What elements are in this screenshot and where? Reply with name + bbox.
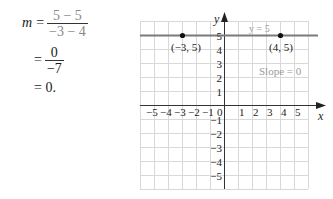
y-axis-arrow-icon	[221, 12, 228, 22]
svg-text:−5: −5	[146, 106, 158, 118]
svg-text:−4: −4	[160, 106, 172, 118]
svg-text:−4: −4	[210, 156, 222, 168]
svg-text:2: 2	[253, 106, 259, 118]
point-4-5	[278, 33, 283, 38]
svg-text:−5: −5	[210, 170, 222, 182]
svg-text:5: 5	[217, 30, 223, 42]
point-label-1: (−3, 5)	[171, 41, 201, 54]
svg-text:−2: −2	[188, 106, 200, 118]
slope-label: Slope = 0	[259, 65, 302, 77]
svg-text:4: 4	[281, 106, 287, 118]
svg-text:−1: −1	[210, 114, 222, 126]
svg-text:3: 3	[217, 58, 223, 70]
svg-text:3: 3	[267, 106, 273, 118]
svg-text:4: 4	[217, 44, 223, 56]
svg-text:1: 1	[217, 86, 223, 98]
svg-text:−3: −3	[210, 142, 222, 154]
svg-text:1: 1	[239, 106, 245, 118]
svg-text:−3: −3	[174, 106, 186, 118]
x-axis-arrow-icon	[316, 102, 326, 109]
point-label-2: (4, 5)	[269, 41, 293, 54]
y-axis-label: y	[213, 12, 220, 26]
x-tick-labels: −5 −4 −3 −2 −1 0 1 2 3 4 5	[146, 106, 301, 118]
coordinate-graph: y x y = 5 Slope = 0 (−3, 5) (4, 5) −5 −4…	[0, 0, 333, 199]
svg-text:2: 2	[217, 72, 223, 84]
line-label: y = 5	[249, 23, 270, 34]
x-axis-label: x	[317, 109, 324, 123]
point-neg3-5	[180, 33, 185, 38]
svg-text:−2: −2	[210, 128, 222, 140]
svg-text:5: 5	[295, 106, 301, 118]
